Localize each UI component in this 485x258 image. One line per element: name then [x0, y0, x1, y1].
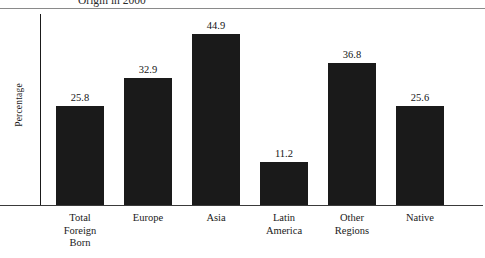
bar-value-label: 25.6 [411, 92, 429, 104]
bar-column: 32.9 [119, 20, 177, 205]
x-axis-category-label: Native [381, 212, 459, 225]
x-axis-category-label: TotalForeignBorn [41, 212, 119, 250]
x-axis-category-line: Regions [313, 225, 391, 238]
bar-group: 11.2 [255, 20, 313, 205]
plot-area: 25.8TotalForeignBorn32.9Europe44.9Asia11… [0, 0, 485, 258]
x-axis-category-line: Born [41, 237, 119, 250]
bar-column: 36.8 [323, 20, 381, 205]
bar-column: 11.2 [255, 20, 313, 205]
x-axis-category-label: OtherRegions [313, 212, 391, 237]
bar [56, 106, 104, 205]
x-axis-category-label: Europe [109, 212, 187, 225]
bar-group: 32.9 [119, 20, 177, 205]
x-axis-category-line: America [245, 225, 323, 238]
x-axis-category-line: Native [381, 212, 459, 225]
bar-value-label: 11.2 [275, 148, 293, 160]
bar [396, 106, 444, 205]
bar-column: 44.9 [187, 20, 245, 205]
bar-group: 44.9 [187, 20, 245, 205]
bar [124, 78, 172, 205]
bar-value-label: 32.9 [139, 64, 157, 76]
bar-chart-figure: Origin in 2000 Percentage 25.8TotalForei… [0, 0, 485, 258]
bar [328, 63, 376, 205]
bar-value-label: 44.9 [207, 20, 225, 32]
bar [192, 34, 240, 205]
x-axis-category-label: Asia [177, 212, 255, 225]
bar-column: 25.8 [51, 20, 109, 205]
x-axis-category-line: Foreign [41, 225, 119, 238]
x-axis-category-line: Total [41, 212, 119, 225]
bar-column: 25.6 [391, 20, 449, 205]
x-axis-category-label: LatinAmerica [245, 212, 323, 237]
x-axis-category-line: Latin [245, 212, 323, 225]
bar-group: 25.8 [51, 20, 109, 205]
x-axis-category-line: Asia [177, 212, 255, 225]
bar-group: 36.8 [323, 20, 381, 205]
bar-value-label: 25.8 [71, 92, 89, 104]
bar-value-label: 36.8 [343, 49, 361, 61]
bar [260, 162, 308, 205]
x-axis-category-line: Other [313, 212, 391, 225]
x-axis-category-line: Europe [109, 212, 187, 225]
bar-group: 25.6 [391, 20, 449, 205]
